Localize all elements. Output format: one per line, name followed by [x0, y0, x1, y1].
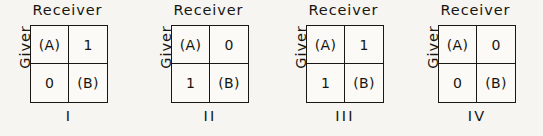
panel-label: IV	[438, 108, 516, 125]
panel-label: III	[306, 108, 384, 125]
panel-label: II	[171, 108, 249, 125]
matrix-cell: 0	[439, 64, 477, 102]
matrix-cell: 0	[210, 26, 248, 64]
matrix-cell: (B)	[210, 64, 248, 102]
matrix-panel-i: Receiver Giver (A) 1 0 (B) I	[0, 0, 135, 136]
matrix-panel-ii: Receiver Giver (A) 0 1 (B) II	[141, 0, 276, 136]
matrix-grid: (A) 0 0 (B)	[438, 25, 516, 103]
matrix-cell: (A)	[31, 26, 69, 64]
matrix-grid: (A) 0 1 (B)	[171, 25, 249, 103]
matrix-panel-iv: Receiver Giver (A) 0 0 (B) IV	[408, 0, 543, 136]
matrix-cell: 1	[69, 26, 107, 64]
matrix-cell: 1	[172, 64, 210, 102]
matrix-cell: (A)	[307, 26, 345, 64]
matrix-grid: (A) 1 0 (B)	[30, 25, 108, 103]
matrix-cell: 0	[31, 64, 69, 102]
matrix-cell: (B)	[345, 64, 383, 102]
matrix-cell: (A)	[439, 26, 477, 64]
matrix-cell: (B)	[69, 64, 107, 102]
matrix-grid: (A) 1 1 (B)	[306, 25, 384, 103]
payoff-matrix-figure: Receiver Giver (A) 1 0 (B) I Receiver Gi…	[0, 0, 543, 136]
matrix-cell: 0	[477, 26, 515, 64]
matrix-cell: (B)	[477, 64, 515, 102]
matrix-cell: 1	[307, 64, 345, 102]
panel-label: I	[30, 108, 108, 125]
matrix-cell: (A)	[172, 26, 210, 64]
matrix-panel-iii: Receiver Giver (A) 1 1 (B) III	[276, 0, 411, 136]
matrix-cell: 1	[345, 26, 383, 64]
